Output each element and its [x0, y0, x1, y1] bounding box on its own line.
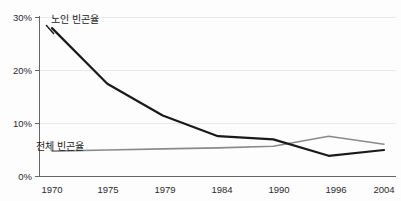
series-label-overall-poverty: 전체 빈곤율 — [36, 141, 84, 152]
series-line-overall-poverty — [52, 136, 384, 151]
poverty-rate-line-chart: 30% 20% 10% 0% 1970 1975 1979 1984 1990 … — [0, 0, 401, 201]
x-tick-label-2004: 2004 — [373, 184, 394, 195]
series-label-elderly-poverty: 노인 빈곤율 — [51, 14, 99, 25]
y-tick-label-10: 10% — [13, 118, 33, 129]
x-tick-label-1996: 1996 — [325, 184, 346, 195]
x-tick-label-1984: 1984 — [211, 184, 232, 195]
y-tick-label-0: 0% — [18, 171, 32, 182]
x-tick-label-1990: 1990 — [268, 184, 289, 195]
x-axis-tick-labels: 1970 1975 1979 1984 1990 1996 2004 — [41, 184, 394, 195]
y-tick-label-20: 20% — [13, 65, 33, 76]
y-tick-label-30: 30% — [13, 12, 33, 23]
y-tick-marks — [35, 18, 39, 177]
x-tick-label-1979: 1979 — [154, 184, 175, 195]
x-tick-label-1970: 1970 — [41, 184, 62, 195]
axes — [39, 16, 396, 177]
chart-plot-area: 30% 20% 10% 0% 1970 1975 1979 1984 1990 … — [0, 0, 401, 201]
y-axis-tick-labels: 30% 20% 10% 0% — [13, 12, 33, 182]
x-tick-label-1975: 1975 — [97, 184, 118, 195]
